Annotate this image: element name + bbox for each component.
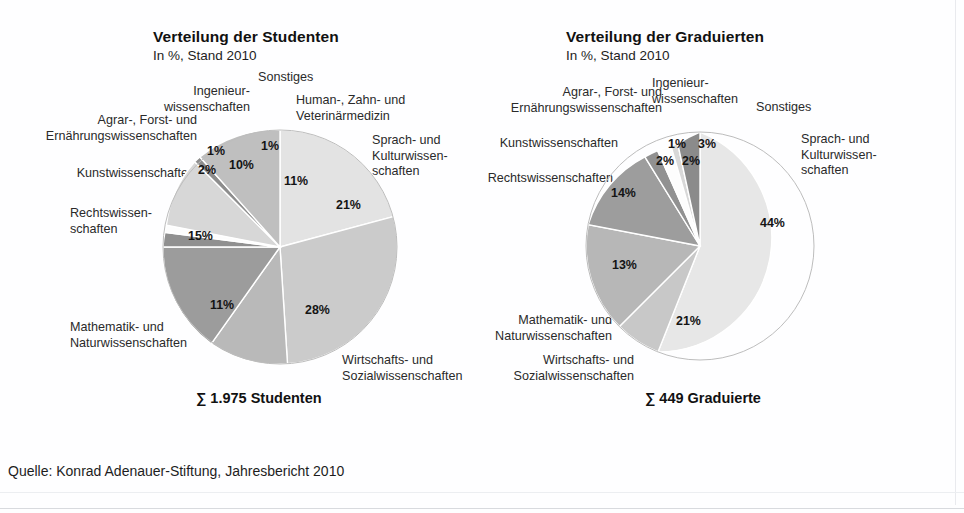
label-agrarwissenschaften-graduierte: Agrar-, Forst- und Ernährungswissenschaf…: [485, 85, 662, 116]
label-ingenieurwissenschaften-graduierte: Ingenieur- wissenschaften: [652, 76, 738, 107]
chart-title-studenten: Verteilung der Studenten: [153, 28, 339, 46]
label-sonstiges-studenten: Sonstiges: [258, 70, 313, 86]
frame-border-bottom: [0, 508, 964, 509]
pct-kunstwissenschaften-graduierte: 2%: [656, 154, 674, 168]
pct-agrarwissenschaften-studenten: 1%: [207, 144, 225, 158]
pct-ingenieurwissenschaften-graduierte: 1%: [668, 137, 686, 151]
pct-wirtschaftswissenschaften-studenten: 28%: [305, 303, 330, 317]
pct-kunstwissenschaften-studenten: 2%: [198, 163, 216, 177]
pct-wirtschaftswissenschaften-graduierte: 21%: [676, 314, 701, 328]
source-note: Quelle: Konrad Adenauer-Stiftung, Jahres…: [8, 463, 344, 479]
chart-total-studenten: ∑ 1.975 Studenten: [196, 390, 322, 406]
pie-chart-graduierte: [578, 124, 822, 368]
pie-chart-studenten: [155, 122, 405, 372]
pct-sonstiges-graduierte: 3%: [698, 137, 716, 151]
chart-studenten: Verteilung der Studenten In %, Stand 201…: [0, 0, 490, 420]
chart-graduierte: Verteilung der Graduierten In %, Stand 2…: [490, 0, 964, 420]
infographic-page: Verteilung der Studenten In %, Stand 201…: [0, 0, 964, 513]
pct-agrarwissenschaften-graduierte: 2%: [682, 154, 700, 168]
pct-sprachwissenschaften-graduierte: 44%: [760, 216, 785, 230]
label-sonstiges-graduierte: Sonstiges: [756, 100, 811, 116]
pct-rechtswissenschaften-studenten: 15%: [188, 229, 213, 243]
pct-humanmedizin-studenten: 11%: [284, 174, 308, 188]
chart-title-graduierte: Verteilung der Graduierten: [566, 28, 764, 46]
pct-rechtswissenschaften-graduierte: 14%: [611, 186, 636, 200]
label-ingenieurwissenschaften-studenten: Ingenieur- wissenschaften: [110, 84, 250, 115]
pct-mathematik-graduierte: 13%: [612, 258, 637, 272]
chart-subtitle-studenten: In %, Stand 2010: [153, 48, 257, 63]
pct-sprachwissenschaften-studenten: 21%: [336, 198, 361, 212]
pct-sonstiges-studenten: 1%: [261, 139, 279, 153]
label-humanmedizin-studenten: Human-, Zahn- und Veterinärmedizin: [296, 93, 405, 124]
pct-mathematik-studenten: 11%: [210, 298, 234, 312]
chart-subtitle-graduierte: In %, Stand 2010: [566, 48, 670, 63]
frame-border-bottom-inner: [0, 492, 964, 493]
pct-ingenieurwissenschaften-studenten: 10%: [229, 158, 254, 172]
label-rechtswissenschaften-studenten: Rechtswissen- schaften: [70, 206, 152, 237]
chart-total-graduierte: ∑ 449 Graduierte: [645, 390, 761, 406]
